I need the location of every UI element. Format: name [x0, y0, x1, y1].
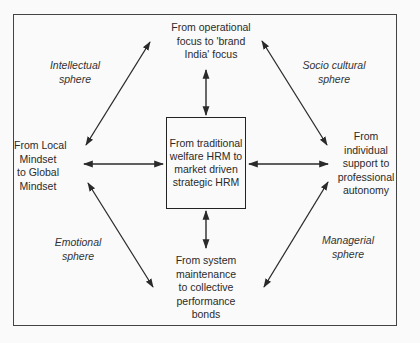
- node-bottom-line: From system: [165, 254, 247, 268]
- node-right-line: individual: [334, 144, 398, 158]
- arrow-left-bottom: [88, 183, 153, 287]
- node-bottom-line: maintenance: [165, 268, 247, 282]
- node-top-line: From operational: [155, 21, 267, 35]
- node-left-line: to Global: [14, 166, 62, 180]
- node-top-line: India' focus: [155, 48, 267, 62]
- sphere-line: Socio cultural: [294, 59, 374, 73]
- node-bottom: From system maintenance to collective pe…: [165, 254, 247, 322]
- center-text-line: welfare HRM to: [170, 150, 243, 163]
- node-right: From individual support to professional …: [334, 130, 398, 198]
- sphere-line: sphere: [313, 248, 383, 262]
- sphere-label-managerial: Managerial sphere: [313, 234, 383, 261]
- sphere-label-intellectual: Intellectual sphere: [40, 59, 110, 86]
- sphere-line: Emotional: [43, 236, 113, 250]
- center-text-line: market driven: [170, 163, 243, 176]
- center-text-line: From traditional: [170, 137, 243, 150]
- node-right-line: professional: [334, 171, 398, 185]
- sphere-line: Managerial: [313, 234, 383, 248]
- node-bottom-line: performance: [165, 295, 247, 309]
- node-bottom-line: to collective: [165, 281, 247, 295]
- sphere-label-emotional: Emotional sphere: [43, 236, 113, 263]
- sphere-label-socio-cultural: Socio cultural sphere: [294, 59, 374, 86]
- node-right-line: support to: [334, 157, 398, 171]
- node-top-line: focus to 'brand: [155, 35, 267, 49]
- node-right-line: autonomy: [334, 184, 398, 198]
- node-top: From operational focus to 'brand India' …: [155, 21, 267, 62]
- arrow-top-left: [86, 42, 150, 145]
- node-left-line: Mindset: [14, 153, 62, 167]
- node-right-line: From: [334, 130, 398, 144]
- node-left-line: Mindset: [14, 180, 62, 194]
- sphere-line: sphere: [40, 73, 110, 87]
- sphere-line: sphere: [43, 250, 113, 264]
- sphere-line: sphere: [294, 73, 374, 87]
- center-box: From traditional welfare HRM to market d…: [166, 117, 246, 209]
- node-left: From Local Mindset to Global Mindset: [14, 139, 62, 193]
- node-left-line: From Local: [14, 139, 62, 153]
- center-text-line: strategic HRM: [170, 176, 243, 189]
- arrow-top-right: [262, 41, 327, 145]
- sphere-line: Intellectual: [40, 59, 110, 73]
- node-bottom-line: bonds: [165, 308, 247, 322]
